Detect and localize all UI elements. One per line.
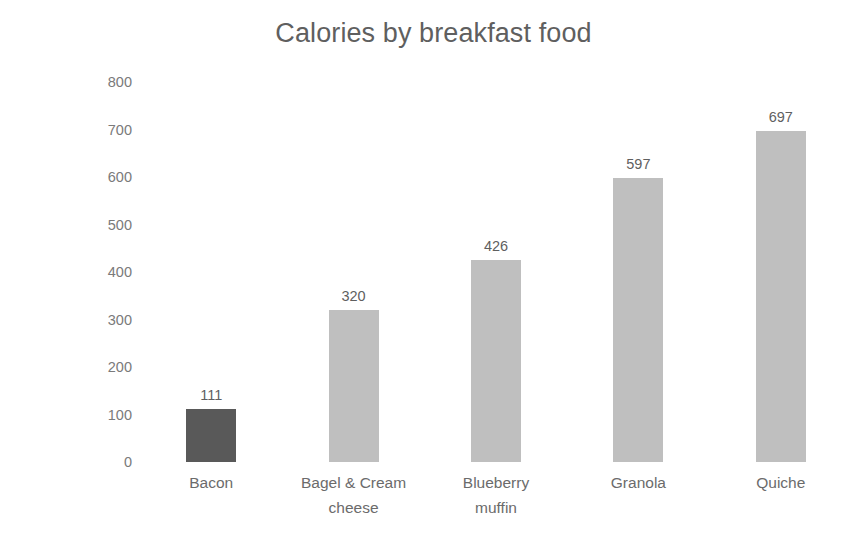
bar-group: 597 (567, 82, 709, 462)
bar-value-label: 111 (200, 387, 222, 403)
y-axis-tick: 200 (86, 359, 132, 375)
x-axis-category-label-line: Quiche (710, 470, 852, 495)
bar[interactable] (471, 260, 521, 462)
x-axis-category-label-line: Bacon (140, 470, 282, 495)
x-axis-category-label: Quiche (710, 470, 852, 495)
bar-group: 426 (425, 82, 567, 462)
bar[interactable] (329, 310, 379, 462)
bar-value-label: 697 (769, 109, 793, 125)
bar-group: 111 (140, 82, 282, 462)
y-axis-tick: 700 (86, 122, 132, 138)
bar-chart: Calories by breakfast food Calories per … (0, 0, 867, 552)
bar-value-label: 597 (626, 156, 650, 172)
bar[interactable] (186, 409, 236, 462)
x-axis-category-label-line: Granola (567, 470, 709, 495)
x-axis-category-label-line: muffin (425, 495, 567, 520)
x-axis-category-label-line: Blueberry (425, 470, 567, 495)
y-axis-tick-labels: 8007006005004003002001000 (80, 82, 132, 462)
x-axis-category-label: Blueberrymuffin (425, 470, 567, 520)
y-axis-tick: 600 (86, 169, 132, 185)
x-axis-category-label: Bagel & Creamcheese (282, 470, 424, 520)
x-axis-category-label-line: cheese (282, 495, 424, 520)
bar-value-label: 320 (341, 288, 365, 304)
y-axis-tick: 100 (86, 407, 132, 423)
bar[interactable] (756, 131, 806, 462)
bar[interactable] (613, 178, 663, 462)
x-axis-category-label: Bacon (140, 470, 282, 495)
x-axis-category-label: Granola (567, 470, 709, 495)
y-axis-tick: 0 (86, 454, 132, 470)
bar-value-label: 426 (484, 238, 508, 254)
plot-area: 111320426597697 (140, 82, 852, 462)
y-axis-tick: 300 (86, 312, 132, 328)
bar-group: 697 (710, 82, 852, 462)
y-axis-tick: 500 (86, 217, 132, 233)
x-axis-category-labels: BaconBagel & CreamcheeseBlueberrymuffinG… (140, 470, 852, 540)
chart-title: Calories by breakfast food (0, 18, 867, 49)
y-axis-tick: 400 (86, 264, 132, 280)
y-axis-tick: 800 (86, 74, 132, 90)
bar-group: 320 (282, 82, 424, 462)
x-axis-category-label-line: Bagel & Cream (282, 470, 424, 495)
